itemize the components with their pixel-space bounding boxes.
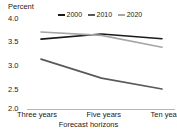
- x-axis-tick-five-years: Five years: [86, 110, 121, 119]
- x-axis-title: Forecast horizons: [0, 120, 177, 129]
- x-axis-tick-three-years: Three years: [17, 110, 57, 119]
- y-axis-unit-label: Percent: [8, 2, 34, 11]
- y-axis-tick-4-0: 4.0: [8, 14, 18, 23]
- y-axis-tick-3-5: 3.5: [8, 37, 18, 46]
- y-axis-tick-3-0: 3.0: [8, 61, 18, 70]
- plot-area: [29, 14, 174, 109]
- series-lines: [29, 14, 174, 109]
- x-axis-tick-labels: Three years Five years Ten years: [29, 110, 174, 119]
- y-axis-tick-2-5: 2.5: [8, 85, 18, 94]
- series-line-2010: [41, 59, 162, 89]
- x-axis-tick-ten-years: Ten years: [150, 110, 177, 119]
- line-chart: Percent 4.0 3.5 3.0 2.5 2.0 2000 2010 20…: [0, 0, 177, 131]
